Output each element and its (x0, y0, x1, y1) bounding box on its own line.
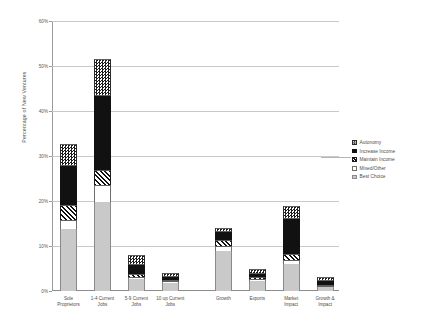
legend-item[interactable]: Autonomy (352, 140, 395, 145)
bar-segment-mixed-other (94, 185, 111, 202)
y-axis-tick-label: 0% (41, 289, 48, 294)
legend-item-label: Mixed/Other (360, 166, 386, 171)
y-axis-tick-label: 40% (39, 109, 48, 114)
bar-segment-best-choice (317, 287, 334, 291)
y-axis-tick-mark (49, 291, 52, 292)
bar-segment-autonomy (283, 206, 300, 218)
bar-segment-maintain-income (60, 205, 77, 220)
legend-item-label: Increase Income (360, 149, 395, 154)
legend-leader-line (321, 157, 351, 158)
diagonal-hatch-icon (352, 157, 357, 162)
bar-segment-best-choice (215, 251, 232, 292)
y-axis-title: Percentage of New Ventures (21, 37, 27, 177)
bar-segment-autonomy (128, 255, 145, 264)
y-axis-tick-mark (49, 66, 52, 67)
plot-area: 0%10%20%30%40%50%60%SoleProprietors1-4 C… (52, 21, 339, 291)
checkerboard-icon (352, 140, 357, 145)
gridline (52, 21, 339, 22)
bar-1-4-current-jobs[interactable]: 1-4 CurrentJobs (94, 59, 111, 291)
bar-segment-maintain-income (94, 170, 111, 186)
y-axis-tick-mark (49, 156, 52, 157)
bar-segment-best-choice (162, 283, 179, 291)
bar-segment-increase-income (128, 264, 145, 275)
y-axis-tick-label: 30% (39, 154, 48, 159)
white-icon (352, 166, 357, 171)
x-axis-tick-label: Growth &Impact (303, 296, 348, 309)
bar-exports[interactable]: Exports (249, 269, 266, 291)
bar-segment-increase-income (94, 95, 111, 169)
y-axis-tick-mark (49, 21, 52, 22)
y-axis-tick-mark (49, 246, 52, 247)
bar-segment-best-choice (283, 264, 300, 291)
bar-segment-increase-income (60, 165, 77, 206)
legend-item-label: Best Choice (360, 174, 386, 179)
light-gray-icon (352, 175, 357, 180)
legend-item[interactable]: Increase Income (352, 149, 395, 154)
bar-segment-best-choice (94, 202, 111, 291)
legend-item-label: Maintain Income (360, 157, 395, 162)
bar-segment-increase-income (215, 231, 232, 240)
bar-segment-mixed-other (60, 220, 77, 229)
bar-segment-best-choice (128, 279, 145, 291)
bar-segment-increase-income (283, 218, 300, 254)
bar-growth[interactable]: Growth (215, 228, 232, 291)
y-axis-tick-label: 20% (39, 199, 48, 204)
bar-segment-best-choice (249, 281, 266, 291)
solid-black-icon (352, 149, 357, 154)
legend-item[interactable]: Maintain Income (352, 157, 395, 162)
stacked-bar-chart: Percentage of New Ventures 0%10%20%30%40… (0, 0, 428, 333)
chart-legend: AutonomyIncrease IncomeMaintain IncomeMi… (352, 140, 395, 179)
legend-item[interactable]: Mixed/Other (352, 166, 395, 171)
bar-segment-best-choice (60, 229, 77, 291)
bar-10-up-current-jobs[interactable]: 10 up CurrentJobs (162, 273, 179, 291)
bar-growth-impact[interactable]: Growth &Impact (317, 277, 334, 291)
y-axis-tick-label: 10% (39, 244, 48, 249)
y-axis-tick-label: 60% (39, 19, 48, 24)
bar-segment-autonomy (94, 59, 111, 95)
y-axis-tick-mark (49, 201, 52, 202)
bar-5-9-current-jobs[interactable]: 5-9 CurrentJobs (128, 255, 145, 291)
legend-item-label: Autonomy (360, 140, 382, 145)
bar-sole-proprietors[interactable]: SoleProprietors (60, 144, 77, 291)
y-axis-tick-mark (49, 111, 52, 112)
legend-item[interactable]: Best Choice (352, 174, 395, 179)
bar-market-impact[interactable]: MarketImpact (283, 206, 300, 291)
y-axis-tick-label: 50% (39, 64, 48, 69)
bar-segment-autonomy (60, 144, 77, 165)
x-axis-tick-label: 10 up CurrentJobs (148, 296, 193, 309)
